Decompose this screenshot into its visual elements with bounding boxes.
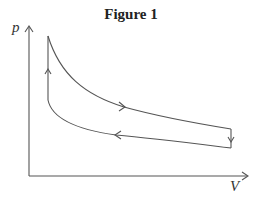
- upper-curve-process: [48, 36, 231, 129]
- pv-diagram: [0, 0, 262, 197]
